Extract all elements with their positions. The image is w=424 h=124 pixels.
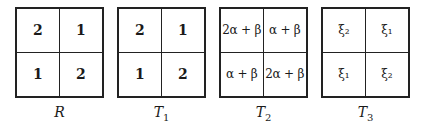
panel-t2: 2α + β α + β α + β 2α + β T2 (219, 7, 308, 123)
cell-t3-bottom-right: ξ₂ (366, 53, 409, 97)
caption-t2: T2 (219, 104, 308, 123)
cell-t2-top-right: α + β (264, 9, 307, 53)
cell-t2-bottom-right: 2α + β (264, 53, 307, 97)
cell-t1-top-left: 2 (119, 9, 162, 53)
grid-t3: ξ₂ ξ₁ ξ₁ ξ₂ (321, 7, 410, 98)
cell-r-bottom-right: 2 (60, 53, 103, 97)
caption-label: T (256, 104, 265, 120)
caption-t3: T3 (321, 104, 410, 123)
cell-t1-top-right: 1 (162, 9, 205, 53)
caption-subscript: 1 (163, 112, 169, 123)
cell-t1-bottom-right: 2 (162, 53, 205, 97)
cell-r-top-right: 1 (60, 9, 103, 53)
cell-t2-bottom-left: α + β (221, 53, 264, 97)
caption-subscript: 3 (367, 112, 373, 123)
grid-r: 2 1 1 2 (15, 7, 104, 98)
caption-r: R (15, 104, 104, 123)
caption-label: R (54, 104, 65, 120)
cell-t3-top-left: ξ₂ (323, 9, 366, 53)
panel-t1: 2 1 1 2 T1 (117, 7, 206, 123)
cell-t3-bottom-left: ξ₁ (323, 53, 366, 97)
cell-t1-bottom-left: 1 (119, 53, 162, 97)
caption-subscript: 2 (265, 112, 271, 123)
cell-r-top-left: 2 (17, 9, 60, 53)
caption-label: T (154, 104, 163, 120)
caption-label: T (358, 104, 367, 120)
grid-t2: 2α + β α + β α + β 2α + β (219, 7, 308, 98)
caption-t1: T1 (117, 104, 206, 123)
cell-t3-top-right: ξ₁ (366, 9, 409, 53)
panel-t3: ξ₂ ξ₁ ξ₁ ξ₂ T3 (321, 7, 410, 123)
cell-t2-top-left: 2α + β (221, 9, 264, 53)
panel-r: 2 1 1 2 R (15, 7, 104, 123)
cell-r-bottom-left: 1 (17, 53, 60, 97)
grid-t1: 2 1 1 2 (117, 7, 206, 98)
